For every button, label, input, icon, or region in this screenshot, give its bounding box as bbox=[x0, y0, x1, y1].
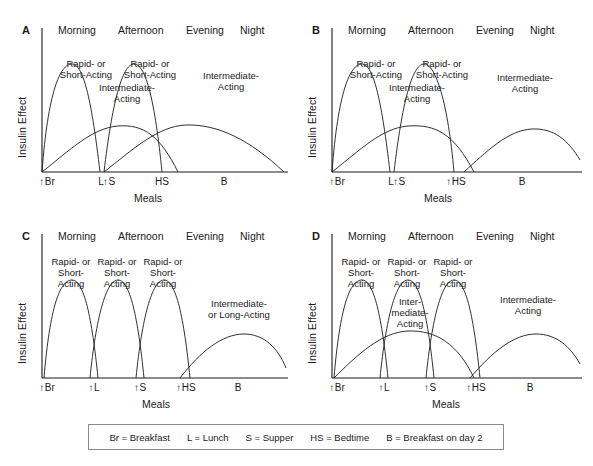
tick-b-b: B bbox=[510, 176, 534, 187]
tick-label-l-d: L bbox=[384, 382, 390, 393]
tick-label-s-d: S bbox=[429, 382, 436, 393]
tick-label-l-c: L bbox=[94, 382, 100, 393]
panel-c: C Insulin Effect MorningAfternoonEvening… bbox=[0, 212, 296, 424]
arrow-icon-br-c: ↑ bbox=[39, 382, 44, 393]
tick-label-hs-c: HS bbox=[182, 382, 196, 393]
tick-s-c: ↑S bbox=[124, 382, 156, 393]
tick-label-br-c: Br bbox=[45, 382, 55, 393]
legend-box: Br = Breakfast L = Lunch S = Supper HS =… bbox=[88, 424, 504, 450]
tick-hs-c: ↑HS bbox=[166, 382, 206, 393]
tick-label-hs-d: HS bbox=[472, 382, 486, 393]
x-axis-label-b: Meals bbox=[408, 192, 468, 204]
panel-a: A Insulin Effect MorningAfternoonEvening… bbox=[0, 0, 296, 212]
arrow-icon-l-c: ↑ bbox=[88, 382, 93, 393]
tick-label-b-b: B bbox=[519, 176, 526, 187]
tick-label-b-c: B bbox=[235, 382, 242, 393]
tick-s-b: ↑S bbox=[382, 176, 416, 187]
tick-s-d: ↑S bbox=[414, 382, 446, 393]
tick-label-br-d: Br bbox=[335, 382, 345, 393]
curve-label-rapid1-b: Rapid- orShort-Acting bbox=[338, 58, 414, 80]
curve-label-intermediate1-a: Intermediate-Acting bbox=[86, 82, 168, 104]
legend-item-l: L = Lunch bbox=[187, 432, 229, 443]
legend-item-s: S = Supper bbox=[246, 432, 294, 443]
arrow-icon-br-b: ↑ bbox=[329, 176, 334, 187]
arrow-icon-hs-b: ↑ bbox=[446, 176, 451, 187]
tick-l-c: ↑L bbox=[78, 382, 110, 393]
curve-label-rapid3-c: Rapid- orShort-Acting bbox=[132, 256, 194, 290]
curve-label-intermediate2-d: Intermediate-Acting bbox=[486, 294, 570, 316]
tick-label-br-a: Br bbox=[45, 176, 55, 187]
panel-d: D Insulin Effect MorningAfternoonEvening… bbox=[296, 212, 592, 424]
curve-label-intermediate2-a: Intermediate-Acting bbox=[190, 70, 272, 92]
tick-s-a: ↑S bbox=[92, 176, 126, 187]
curve-label-rapid3-d: Rapid- orShort-Acting bbox=[422, 256, 484, 290]
tick-label-hs-a: HS bbox=[155, 176, 169, 187]
tick-b-a: B bbox=[212, 176, 236, 187]
curve-label-intermediate1-d: Inter-mediate-Acting bbox=[380, 296, 440, 330]
arrow-icon-hs-c: ↑ bbox=[176, 382, 181, 393]
arrow-icon-l-d: ↑ bbox=[378, 382, 383, 393]
curve-label-rapid2-a: Rapid- orShort-Acting bbox=[112, 58, 188, 80]
curve-label-longacting-c: Intermediate-or Long-Acting bbox=[192, 298, 286, 320]
curve-label-intermediate2-b: Intermediate-Acting bbox=[484, 72, 566, 94]
tick-br-b: ↑Br bbox=[320, 176, 354, 187]
tick-label-s-b: S bbox=[398, 176, 405, 187]
tick-label-s-a: S bbox=[108, 176, 115, 187]
tick-label-b-d: B bbox=[527, 382, 534, 393]
tick-hs-d: ↑HS bbox=[456, 382, 496, 393]
legend-item-br: Br = Breakfast bbox=[109, 432, 169, 443]
legend-item-hs: HS = Bedtime bbox=[310, 432, 369, 443]
arrow-icon-br-a: ↑ bbox=[39, 176, 44, 187]
legend-item-b: B = Breakfast on day 2 bbox=[386, 432, 482, 443]
curve-label-intermediate1-b: Intermediate-Acting bbox=[376, 82, 458, 104]
tick-br-a: ↑Br bbox=[30, 176, 64, 187]
arrow-icon-br-d: ↑ bbox=[329, 382, 334, 393]
arrow-icon-hs-d: ↑ bbox=[466, 382, 471, 393]
tick-hs-b: ↑HS bbox=[436, 176, 476, 187]
tick-label-br-b: Br bbox=[335, 176, 345, 187]
tick-l-d: ↑L bbox=[368, 382, 400, 393]
tick-b-d: B bbox=[518, 382, 542, 393]
panel-b: B Insulin Effect MorningAfternoonEvening… bbox=[296, 0, 592, 212]
x-axis-label-a: Meals bbox=[118, 192, 178, 204]
tick-label-hs-b: HS bbox=[452, 176, 466, 187]
tick-hs-a: HS bbox=[148, 176, 176, 187]
tick-label-s-c: S bbox=[139, 382, 146, 393]
tick-br-c: ↑Br bbox=[30, 382, 64, 393]
tick-br-d: ↑Br bbox=[320, 382, 354, 393]
x-axis-label-c: Meals bbox=[126, 398, 186, 410]
x-axis-label-d: Meals bbox=[416, 398, 476, 410]
curve-label-rapid2-b: Rapid- orShort-Acting bbox=[404, 58, 480, 80]
tick-label-b-a: B bbox=[221, 176, 228, 187]
tick-b-c: B bbox=[226, 382, 250, 393]
